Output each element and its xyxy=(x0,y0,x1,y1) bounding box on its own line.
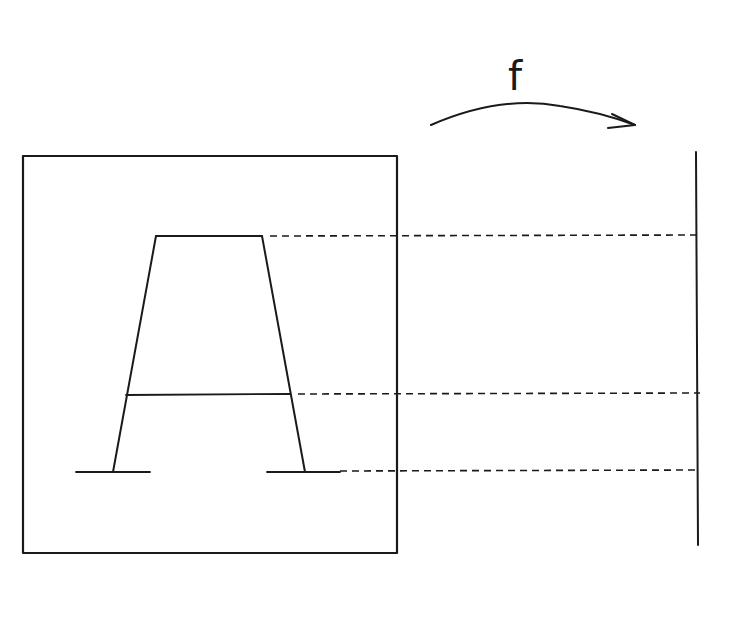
mapping-diagram: f xyxy=(0,0,736,633)
projection-line-crossbar xyxy=(298,393,700,394)
projection-line-top xyxy=(270,235,700,236)
mapping-arrow xyxy=(431,103,635,125)
a-left-leg xyxy=(113,236,156,472)
codomain-line xyxy=(696,152,698,545)
domain-box xyxy=(23,156,397,553)
a-right-leg xyxy=(262,236,305,472)
map-label-f: f xyxy=(508,53,523,99)
projection-line-base xyxy=(340,470,700,471)
a-crossbar xyxy=(126,394,290,395)
letter-a-shape xyxy=(76,236,340,472)
